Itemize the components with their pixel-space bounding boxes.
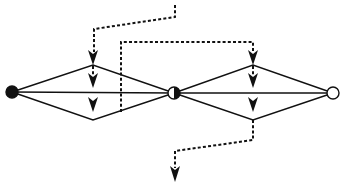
arrowheads bbox=[88, 50, 258, 182]
arrow-down-icon bbox=[248, 73, 258, 88]
input-dashed-path-1 bbox=[94, 5, 175, 52]
junction-node-half-filled bbox=[168, 87, 180, 99]
arrow-down-icon bbox=[88, 73, 98, 88]
output-arrow-down-icon bbox=[170, 166, 180, 182]
arrow-down-icon bbox=[88, 97, 98, 112]
arrow-down-icon bbox=[88, 50, 98, 65]
left-center-edge bbox=[12, 92, 174, 93]
arrow-down-icon bbox=[248, 97, 258, 112]
source-node-solid bbox=[6, 86, 18, 98]
network-diagram bbox=[0, 0, 341, 185]
arrow-down-icon bbox=[248, 50, 258, 65]
input-dashed-path-2 bbox=[121, 42, 253, 112]
sink-node-hollow bbox=[327, 87, 339, 99]
output-dashed-path bbox=[175, 120, 253, 168]
